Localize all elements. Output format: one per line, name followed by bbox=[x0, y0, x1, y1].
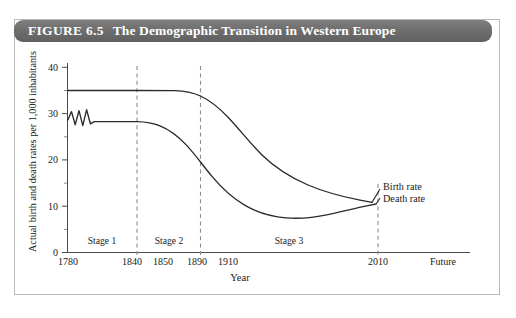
figure-header-bar: FIGURE 6.5 The Demographic Transition in… bbox=[14, 20, 492, 42]
figure-number: FIGURE 6.5 bbox=[28, 23, 104, 39]
figure-title: The Demographic Transition in Western Eu… bbox=[113, 23, 396, 39]
figure-frame bbox=[14, 19, 500, 295]
